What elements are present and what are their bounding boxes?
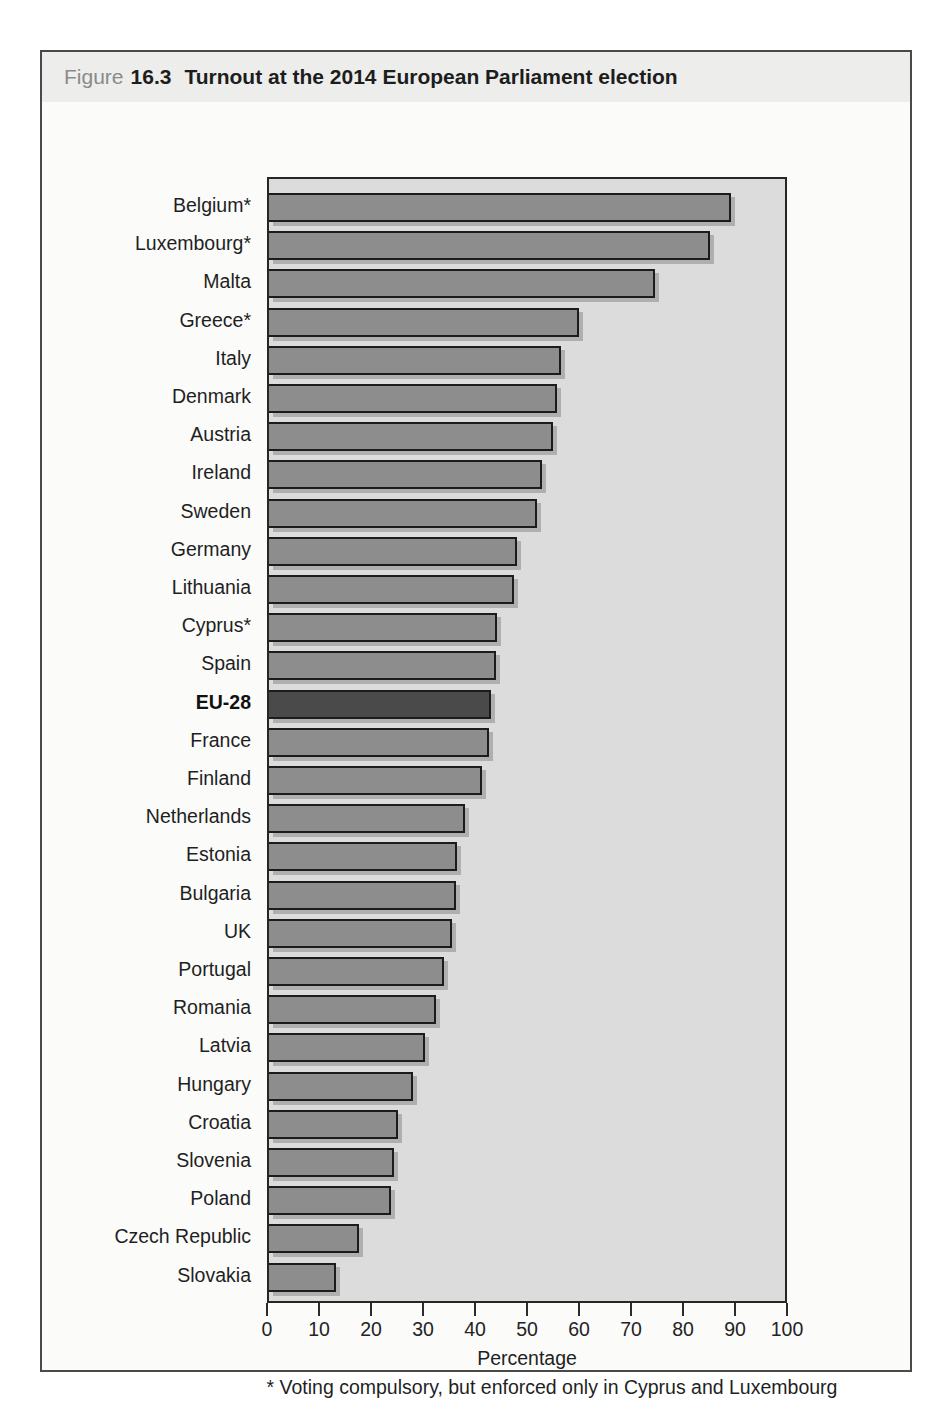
bar: [269, 995, 436, 1024]
figure-header: Figure 16.3 Turnout at the 2014 European…: [42, 52, 910, 102]
bar-highlight: [269, 690, 491, 719]
category-label: Bulgaria: [42, 879, 258, 908]
bar: [269, 384, 557, 413]
tick-label: 100: [757, 1318, 817, 1341]
category-label: Greece*: [42, 306, 258, 335]
tick-mark: [474, 1303, 476, 1316]
tick-mark: [422, 1303, 424, 1316]
category-label: Slovenia: [42, 1146, 258, 1175]
category-label: Luxembourg*: [42, 229, 258, 258]
category-label: Malta: [42, 267, 258, 296]
category-label: Portugal: [42, 955, 258, 984]
bar: [269, 1186, 391, 1215]
tick-mark: [786, 1303, 788, 1316]
tick-label: 0: [237, 1318, 297, 1341]
figure-label: Figure: [64, 65, 124, 89]
category-label: EU-28: [42, 688, 258, 717]
category-label: Belgium*: [42, 191, 258, 220]
figure-title: Turnout at the 2014 European Parliament …: [184, 65, 677, 89]
category-label: Hungary: [42, 1070, 258, 1099]
tick-label: 30: [393, 1318, 453, 1341]
bar: [269, 651, 496, 680]
bar: [269, 575, 514, 604]
category-label: Czech Republic: [42, 1222, 258, 1251]
figure-box: Figure 16.3 Turnout at the 2014 European…: [40, 50, 912, 1372]
tick-label: 80: [653, 1318, 713, 1341]
category-labels: Belgium*Luxembourg*MaltaGreece*ItalyDenm…: [42, 177, 258, 1303]
chart-footnote: * Voting compulsory, but enforced only i…: [192, 1376, 912, 1399]
tick-mark: [682, 1303, 684, 1316]
tick-label: 90: [705, 1318, 765, 1341]
category-label: France: [42, 726, 258, 755]
x-axis-title: Percentage: [267, 1347, 787, 1370]
turnout-bar-chart: Belgium*Luxembourg*MaltaGreece*ItalyDenm…: [42, 102, 910, 1370]
bar: [269, 1263, 336, 1292]
category-label: Netherlands: [42, 802, 258, 831]
bar: [269, 1110, 398, 1139]
tick-label: 10: [289, 1318, 349, 1341]
x-axis-tick-marks: [267, 1303, 787, 1317]
bar: [269, 460, 542, 489]
bar: [269, 919, 452, 948]
tick-label: 60: [549, 1318, 609, 1341]
tick-label: 20: [341, 1318, 401, 1341]
bar: [269, 422, 553, 451]
tick-mark: [526, 1303, 528, 1316]
tick-mark: [578, 1303, 580, 1316]
tick-mark: [266, 1303, 268, 1316]
tick-label: 70: [601, 1318, 661, 1341]
tick-mark: [370, 1303, 372, 1316]
bar: [269, 728, 489, 757]
bar: [269, 231, 710, 260]
bar: [269, 842, 457, 871]
bar: [269, 881, 456, 910]
bar: [269, 1072, 413, 1101]
x-axis-tick-labels: 0102030405060708090100: [267, 1318, 787, 1342]
bar: [269, 346, 561, 375]
bar: [269, 1033, 425, 1062]
category-label: Germany: [42, 535, 258, 564]
category-label: Sweden: [42, 497, 258, 526]
bar: [269, 499, 537, 528]
bar: [269, 613, 497, 642]
category-label: Estonia: [42, 840, 258, 869]
category-label: Latvia: [42, 1031, 258, 1060]
category-label: UK: [42, 917, 258, 946]
bar: [269, 1224, 359, 1253]
bar: [269, 1148, 394, 1177]
tick-mark: [630, 1303, 632, 1316]
category-label: Poland: [42, 1184, 258, 1213]
category-label: Romania: [42, 993, 258, 1022]
bar: [269, 193, 731, 222]
category-label: Croatia: [42, 1108, 258, 1137]
category-label: Slovakia: [42, 1261, 258, 1290]
category-label: Italy: [42, 344, 258, 373]
page: Figure 16.3 Turnout at the 2014 European…: [0, 0, 947, 1414]
bar: [269, 308, 579, 337]
figure-number: 16.3: [131, 65, 172, 89]
category-label: Austria: [42, 420, 258, 449]
tick-mark: [734, 1303, 736, 1316]
plot-area: [267, 177, 787, 1303]
category-label: Cyprus*: [42, 611, 258, 640]
category-label: Spain: [42, 649, 258, 678]
bar: [269, 766, 482, 795]
tick-mark: [318, 1303, 320, 1316]
category-label: Ireland: [42, 458, 258, 487]
category-label: Denmark: [42, 382, 258, 411]
tick-label: 40: [445, 1318, 505, 1341]
bar: [269, 537, 517, 566]
tick-label: 50: [497, 1318, 557, 1341]
bar: [269, 804, 465, 833]
bar: [269, 957, 444, 986]
category-label: Lithuania: [42, 573, 258, 602]
bar: [269, 269, 655, 298]
category-label: Finland: [42, 764, 258, 793]
